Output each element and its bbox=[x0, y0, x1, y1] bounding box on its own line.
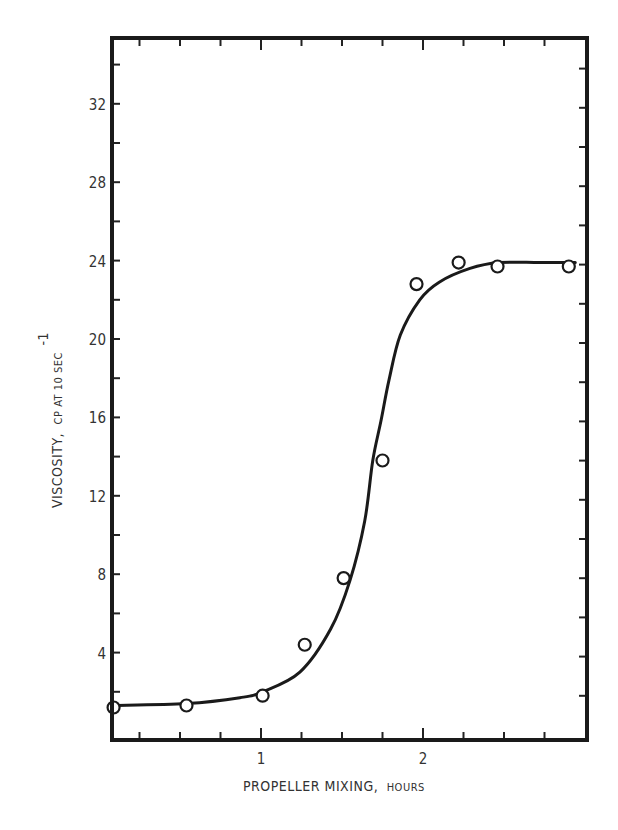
data-point-open-circle bbox=[299, 639, 311, 651]
data-point-open-circle bbox=[563, 260, 575, 272]
y-tick-label: 8 bbox=[97, 566, 106, 584]
x-tick-label: 2 bbox=[419, 750, 428, 768]
y-tick-label: 24 bbox=[89, 253, 106, 271]
y-tick-label: 20 bbox=[89, 331, 106, 349]
y-tick-label: 16 bbox=[89, 409, 106, 427]
plot-frame bbox=[112, 38, 587, 740]
data-point-open-circle bbox=[411, 278, 423, 290]
sigmoid-curve bbox=[112, 262, 575, 705]
y-tick-label: 4 bbox=[97, 645, 106, 663]
data-point-open-circle bbox=[257, 690, 269, 702]
data-point-open-circle bbox=[453, 257, 465, 269]
y-tick-label: 12 bbox=[89, 488, 106, 506]
data-point-open-circle bbox=[377, 455, 389, 467]
y-axis-title: VISCOSITY, CP AT 10 SEC -1 bbox=[35, 332, 65, 508]
x-tick-label: 1 bbox=[257, 750, 266, 768]
data-point-open-circle bbox=[492, 260, 504, 272]
y-tick-label: 28 bbox=[89, 174, 106, 192]
chart: 1248121620242832 PROPELLER MIXING, HOURS… bbox=[0, 0, 618, 830]
fitted-curve bbox=[112, 262, 575, 705]
data-point-open-circle bbox=[180, 700, 192, 712]
data-point-open-circle bbox=[338, 572, 350, 584]
y-tick-label: 32 bbox=[89, 96, 106, 114]
chart-svg: 1248121620242832 PROPELLER MIXING, HOURS… bbox=[0, 0, 618, 830]
svg-text:VISCOSITY, CP AT 10 SE: VISCOSITY, CP AT 10 SEC -1 bbox=[35, 332, 65, 508]
data-points bbox=[108, 257, 575, 714]
x-axis-title: PROPELLER MIXING, HOURS bbox=[243, 778, 425, 794]
axis-ticks bbox=[112, 38, 587, 740]
tick-labels: 1248121620242832 bbox=[89, 96, 427, 768]
